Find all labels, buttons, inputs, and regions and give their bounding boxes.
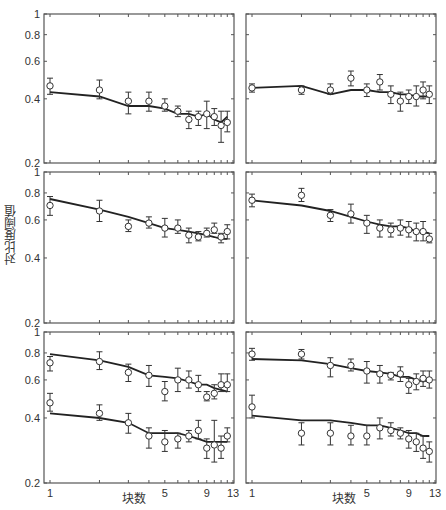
data-point xyxy=(125,223,131,229)
data-point xyxy=(397,371,403,377)
data-point xyxy=(364,368,370,374)
x-axis-label-right: 块数 xyxy=(332,489,356,506)
x-tick-label: 13 xyxy=(429,487,441,499)
data-point xyxy=(406,227,412,233)
panel-r2-c1: 15913 xyxy=(246,332,441,499)
data-point xyxy=(298,192,304,198)
data-point xyxy=(96,87,102,93)
x-tick-label: 9 xyxy=(204,487,210,499)
axes-frame xyxy=(246,172,436,323)
data-point xyxy=(364,220,370,226)
data-point xyxy=(377,225,383,231)
y-tick-label: 0.8 xyxy=(25,187,40,199)
x-tick-label: 5 xyxy=(364,487,370,499)
figure: 0.20.40.60.810.20.40.60.810.20.40.60.811… xyxy=(0,0,446,510)
data-point xyxy=(146,433,152,439)
x-tick-label: 5 xyxy=(162,487,168,499)
y-tick-label: 0.4 xyxy=(25,93,40,105)
data-point xyxy=(224,119,230,125)
data-point xyxy=(388,227,394,233)
data-point xyxy=(204,111,210,117)
y-tick-label: 0.8 xyxy=(25,347,40,359)
data-point xyxy=(211,390,217,396)
data-point xyxy=(211,227,217,233)
y-tick-label: 1 xyxy=(34,166,40,178)
data-point xyxy=(162,103,168,109)
data-point xyxy=(96,208,102,214)
x-axis-label-left: 块数 xyxy=(122,489,146,506)
data-point xyxy=(327,362,333,368)
data-point xyxy=(125,98,131,104)
panel-r0-c1 xyxy=(246,14,436,163)
data-point xyxy=(397,98,403,104)
data-point xyxy=(224,382,230,388)
y-axis-label: 对比度阈值 xyxy=(4,205,20,265)
data-point xyxy=(195,234,201,240)
y-tick-label: 0.4 xyxy=(25,412,40,424)
data-point xyxy=(47,400,53,406)
y-tick-label: 0.6 xyxy=(25,55,40,67)
data-point xyxy=(413,93,419,99)
fit-line xyxy=(50,199,227,239)
data-point xyxy=(406,382,412,388)
data-point xyxy=(204,445,210,451)
data-point xyxy=(125,369,131,375)
data-point xyxy=(47,83,53,89)
data-point xyxy=(298,87,304,93)
data-point xyxy=(426,236,432,242)
data-point xyxy=(175,436,181,442)
data-point xyxy=(224,228,230,234)
data-point xyxy=(406,93,412,99)
data-point xyxy=(388,91,394,97)
data-point xyxy=(218,382,224,388)
data-point xyxy=(146,98,152,104)
x-tick-label: 13 xyxy=(227,487,239,499)
data-point xyxy=(397,225,403,231)
data-point xyxy=(388,372,394,378)
data-point xyxy=(298,430,304,436)
fit-line xyxy=(252,86,429,97)
data-point xyxy=(175,108,181,114)
y-tick-label: 0.6 xyxy=(25,214,40,226)
data-point xyxy=(195,113,201,119)
data-point xyxy=(420,87,426,93)
data-point xyxy=(327,87,333,93)
data-point xyxy=(364,433,370,439)
data-point xyxy=(348,433,354,439)
data-point xyxy=(175,377,181,383)
y-tick-label: 1 xyxy=(34,326,40,338)
data-point xyxy=(211,113,217,119)
data-point xyxy=(146,372,152,378)
data-point xyxy=(388,427,394,433)
axes-frame xyxy=(44,332,234,483)
data-point xyxy=(298,351,304,357)
data-point xyxy=(377,371,383,377)
x-tick-label: 1 xyxy=(249,487,255,499)
panel-r0-c0: 0.20.40.60.81 xyxy=(25,8,234,169)
data-point xyxy=(420,228,426,234)
axes-frame xyxy=(44,14,234,163)
data-point xyxy=(348,211,354,217)
x-tick-label: 9 xyxy=(406,487,412,499)
data-point xyxy=(186,116,192,122)
data-point xyxy=(146,220,152,226)
data-point xyxy=(96,410,102,416)
data-point xyxy=(218,445,224,451)
x-tick-label: 1 xyxy=(47,487,53,499)
panel-r1-c0: 0.20.40.60.81 xyxy=(25,166,234,329)
y-tick-label: 0.2 xyxy=(25,477,40,489)
data-point xyxy=(211,442,217,448)
axes-frame xyxy=(246,332,436,483)
data-point xyxy=(47,202,53,208)
data-point xyxy=(426,448,432,454)
data-point xyxy=(420,445,426,451)
y-tick-label: 0.4 xyxy=(25,252,40,264)
data-point xyxy=(162,225,168,231)
data-point xyxy=(162,388,168,394)
data-point xyxy=(413,228,419,234)
y-tick-label: 0.6 xyxy=(25,374,40,386)
data-point xyxy=(195,382,201,388)
data-point xyxy=(186,433,192,439)
data-point xyxy=(348,362,354,368)
data-point xyxy=(175,225,181,231)
